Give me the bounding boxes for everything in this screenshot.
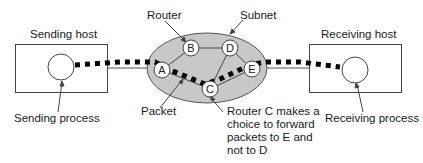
- receiving-host-label: Receiving host: [321, 28, 396, 41]
- router-c-annotation: Router C makes a choice to forward packe…: [227, 105, 320, 157]
- router-label: Router: [147, 9, 182, 22]
- network-diagram: A B C D E: [0, 0, 423, 163]
- subnet-label: Subnet: [240, 9, 276, 22]
- sending-host-label: Sending host: [30, 28, 97, 41]
- svg-text:E: E: [248, 63, 255, 75]
- svg-text:A: A: [158, 64, 166, 76]
- receiving-process-icon: [342, 57, 368, 83]
- svg-text:D: D: [226, 42, 234, 54]
- packet-label: Packet: [141, 105, 176, 118]
- sending-process-label: Sending process: [14, 112, 100, 125]
- receiving-process-label: Receiving process: [325, 112, 419, 125]
- sending-process-icon: [48, 54, 74, 80]
- svg-text:B: B: [187, 42, 194, 54]
- svg-text:C: C: [206, 83, 214, 95]
